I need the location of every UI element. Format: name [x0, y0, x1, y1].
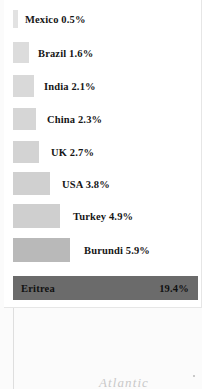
legend-swatch — [13, 108, 36, 130]
legend-row[interactable]: USA 3.8% — [4, 172, 202, 195]
legend-swatch — [13, 141, 39, 163]
legend-row[interactable]: UK 2.7% — [4, 141, 202, 163]
map-dot-marker-icon — [193, 375, 195, 377]
legend-row[interactable]: Mexico 0.5% — [4, 10, 202, 28]
legend-label: China 2.3% — [47, 114, 102, 125]
legend-label: India 2.1% — [44, 81, 96, 92]
legend-label: Burundi 5.9% — [84, 245, 150, 256]
map-coastline — [13, 308, 14, 389]
legend-swatch — [13, 172, 50, 195]
legend-label: USA 3.8% — [62, 178, 110, 189]
legend-panel: Mexico 0.5%Brazil 1.6%India 2.1%China 2.… — [4, 0, 202, 308]
legend-row-highlight[interactable]: Eritrea 19.4% — [13, 276, 198, 300]
legend-swatch — [13, 10, 18, 28]
legend-label: Mexico 0.5% — [25, 14, 86, 25]
legend-swatch — [13, 42, 29, 63]
legend-row[interactable]: India 2.1% — [4, 75, 202, 97]
legend-highlight-name: Eritrea — [21, 283, 55, 294]
legend-row[interactable]: Burundi 5.9% — [4, 238, 202, 262]
legend-label: Turkey 4.9% — [73, 211, 133, 222]
legend-swatch — [13, 75, 34, 97]
legend-swatch — [13, 204, 60, 228]
legend-row[interactable]: Turkey 4.9% — [4, 204, 202, 228]
legend-label: Brazil 1.6% — [38, 47, 93, 58]
legend-highlight-value: 19.4% — [159, 283, 189, 294]
map-ocean-label: Atlantic — [99, 375, 149, 389]
legend-label: UK 2.7% — [51, 147, 94, 158]
legend-swatch — [13, 238, 70, 262]
legend-row[interactable]: Brazil 1.6% — [4, 42, 202, 63]
legend-row[interactable]: China 2.3% — [4, 108, 202, 130]
